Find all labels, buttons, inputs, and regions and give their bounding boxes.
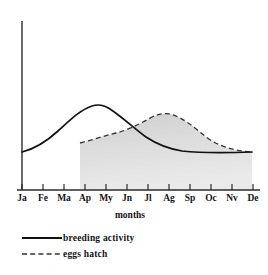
x-tick-label-fe: Fe (38, 193, 48, 203)
x-tick-label-my: My (99, 193, 113, 203)
x-tick-label-ap: Ap (79, 193, 91, 203)
x-axis-title: months (115, 210, 145, 220)
x-tick-label-ja: Ja (17, 193, 27, 203)
x-tick-label-de: De (247, 193, 258, 203)
x-tick-label-sp: Sp (185, 193, 196, 203)
x-tick-label-ma: Ma (57, 193, 71, 203)
x-tick-label-jl: Jl (144, 193, 152, 203)
x-tick-label-nv: Nv (226, 193, 238, 203)
chart-legend: breeding activity eggs hatch (22, 233, 135, 259)
x-tick-label-jn: Jn (122, 193, 133, 203)
breeding-activity-chart: Ja Fe Ma Ap My Jn Jl Ag Sp Oc Nv De mont… (0, 0, 268, 275)
x-tick-label-ag: Ag (163, 193, 175, 203)
legend-label-breeding: breeding activity (63, 233, 135, 243)
chart-canvas: Ja Fe Ma Ap My Jn Jl Ag Sp Oc Nv De mont… (0, 0, 268, 275)
legend-label-eggs: eggs hatch (63, 249, 108, 259)
x-tick-label-oc: Oc (205, 193, 217, 203)
